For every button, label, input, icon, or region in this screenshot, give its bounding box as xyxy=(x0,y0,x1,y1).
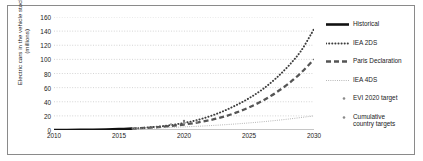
chart-figure: Electric cars in the vehicle stock (mill… xyxy=(7,5,415,155)
legend-key-dotted-icon xyxy=(326,39,352,48)
legend-item: Cumulative country targets xyxy=(326,113,418,122)
data-marker xyxy=(183,122,185,124)
chart-legend: HistoricalIEA 2DSParis DeclarationIEA 4D… xyxy=(326,20,418,131)
plot-area: 020406080100120140160 201020152020202520… xyxy=(54,17,314,130)
y-tick-label: 60 xyxy=(44,84,51,91)
x-tick-label: 2010 xyxy=(47,132,61,139)
y-tick-label: 80 xyxy=(44,70,51,77)
legend-key-solid-thick-icon xyxy=(326,20,352,29)
y-axis-label: Electric cars in the vehicle stock (mill… xyxy=(16,0,31,100)
legend-key-fine-dotted-icon xyxy=(326,76,352,85)
legend-label: IEA 2DS xyxy=(352,39,377,47)
series-line xyxy=(132,29,314,129)
data-marker xyxy=(196,120,198,122)
y-tick-label: 120 xyxy=(40,42,51,49)
legend-key-dashed-icon xyxy=(326,57,352,66)
legend-item: IEA 4DS xyxy=(326,76,418,85)
legend-label: Paris Declaration xyxy=(352,57,402,65)
series-line xyxy=(132,59,314,128)
x-tick-label: 2025 xyxy=(242,132,256,139)
series-line xyxy=(54,129,132,130)
legend-item: EVI 2020 target xyxy=(326,94,418,103)
data-marker xyxy=(170,123,172,125)
legend-label: Historical xyxy=(352,20,379,28)
legend-item: Paris Declaration xyxy=(326,57,418,66)
y-tick-label: 20 xyxy=(44,112,51,119)
y-tick-label: 140 xyxy=(40,28,51,35)
y-tick-label: 100 xyxy=(40,56,51,63)
y-tick-label: 40 xyxy=(44,98,51,105)
legend-item: Historical xyxy=(326,20,418,29)
legend-item: IEA 2DS xyxy=(326,39,418,48)
legend-label: Cumulative country targets xyxy=(352,113,395,128)
x-tick-label: 2015 xyxy=(112,132,126,139)
x-tick-label: 2020 xyxy=(177,132,191,139)
legend-key-dot-marker-icon xyxy=(326,94,352,103)
legend-key-dot-marker-icon xyxy=(326,113,352,122)
legend-label: EVI 2020 target xyxy=(352,94,397,102)
x-tick-label: 2030 xyxy=(307,132,321,139)
chart-canvas xyxy=(54,17,314,130)
y-tick-label: 160 xyxy=(40,14,51,21)
legend-label: IEA 4DS xyxy=(352,76,377,84)
